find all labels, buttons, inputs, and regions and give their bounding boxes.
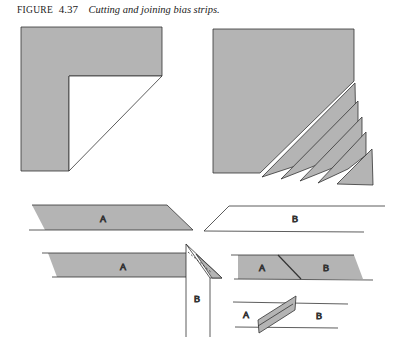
label-strip-a-overlap: A	[120, 262, 126, 272]
panel-fold-corner	[21, 27, 162, 171]
label-strip-b: B	[292, 214, 298, 224]
label-strip-b-joined: B	[323, 263, 329, 273]
panel-cut-strips	[213, 29, 373, 185]
label-strip-b-overlap: B	[194, 294, 200, 304]
label-strip-a: A	[100, 214, 106, 224]
label-strip-b-seam: B	[316, 311, 322, 321]
panel-strips-overlap: A B	[42, 244, 222, 337]
panel-strips-separate: A B	[29, 205, 385, 232]
panel-strips-joined: A B	[231, 255, 373, 280]
label-strip-a-seam: A	[243, 310, 249, 320]
diagram-canvas: A B A B A B A B	[0, 0, 399, 352]
label-strip-a-joined: A	[259, 263, 265, 273]
panel-seam-pressed: A B	[233, 296, 348, 333]
